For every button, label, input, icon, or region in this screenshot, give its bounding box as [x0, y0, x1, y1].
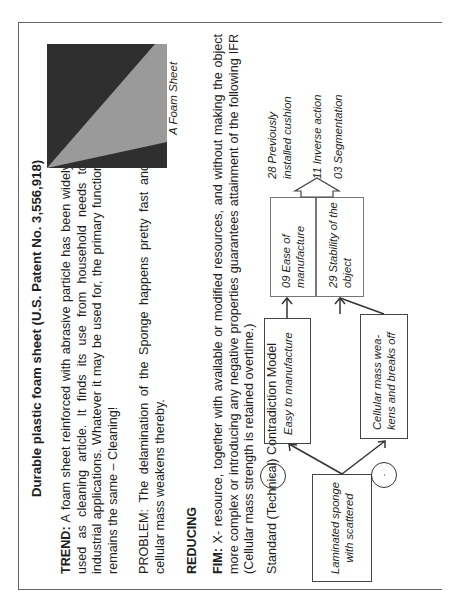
diagram-arrows [19, 21, 443, 589]
arrow-to-negative [342, 441, 385, 474]
hollow-arrow [295, 178, 339, 197]
arrow-to-positive [289, 444, 342, 474]
document-page: Durable plastic foam sheet (U.S. Patent … [18, 22, 442, 590]
